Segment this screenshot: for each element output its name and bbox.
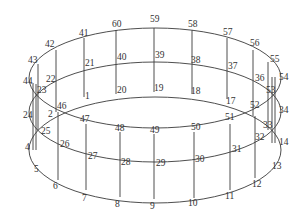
node-label-43: 43 <box>28 55 38 65</box>
node-label-7: 7 <box>82 193 87 203</box>
node-label-31: 31 <box>232 144 242 154</box>
node-label-26: 26 <box>60 139 70 149</box>
node-label-22: 22 <box>46 74 56 84</box>
node-label-25: 25 <box>41 126 51 136</box>
node-label-38: 38 <box>191 55 201 65</box>
node-label-4: 4 <box>25 142 30 152</box>
node-label-5: 5 <box>34 164 39 174</box>
node-label-10: 10 <box>188 198 198 208</box>
node-label-48: 48 <box>115 123 125 133</box>
node-label-39: 39 <box>155 50 165 60</box>
node-label-41: 41 <box>79 28 89 38</box>
node-label-51: 51 <box>225 112 235 122</box>
vertical-edges <box>33 28 275 199</box>
node-label-56: 56 <box>250 38 260 48</box>
node-label-28: 28 <box>121 157 131 167</box>
node-label-34: 34 <box>279 105 289 115</box>
node-label-36: 36 <box>255 73 265 83</box>
node-label-1: 1 <box>85 91 90 101</box>
ring-top <box>29 28 281 128</box>
node-label-60: 60 <box>112 19 122 29</box>
node-label-30: 30 <box>195 154 205 164</box>
node-label-50: 50 <box>191 122 201 132</box>
node-label-47: 47 <box>80 114 90 124</box>
node-label-11: 11 <box>225 191 234 201</box>
node-label-59: 59 <box>150 14 160 24</box>
cylinder-node-diagram: 1245678910111213141718192021222324252627… <box>0 0 308 223</box>
node-label-46: 46 <box>57 101 67 111</box>
node-label-21: 21 <box>85 58 95 68</box>
node-label-20: 20 <box>117 85 127 95</box>
node-label-12: 12 <box>252 179 262 189</box>
node-label-17: 17 <box>226 96 236 106</box>
node-label-53: 53 <box>266 85 276 95</box>
node-label-14: 14 <box>279 137 289 147</box>
node-label-52: 52 <box>250 100 260 110</box>
node-label-40: 40 <box>117 52 127 62</box>
node-label-54: 54 <box>279 72 289 82</box>
node-label-33: 33 <box>263 120 273 130</box>
node-label-18: 18 <box>191 86 201 96</box>
node-label-8: 8 <box>115 199 120 209</box>
node-label-6: 6 <box>53 181 58 191</box>
ring-bottom <box>29 97 281 203</box>
node-label-32: 32 <box>255 132 265 142</box>
node-label-13: 13 <box>272 161 282 171</box>
node-label-37: 37 <box>228 61 238 71</box>
node-label-19: 19 <box>154 83 164 93</box>
node-label-24: 24 <box>23 110 33 120</box>
node-label-42: 42 <box>45 39 55 49</box>
node-label-44: 44 <box>23 76 33 86</box>
node-label-2: 2 <box>48 109 53 119</box>
node-label-29: 29 <box>156 158 166 168</box>
node-label-23: 23 <box>37 85 47 95</box>
diagram-canvas: 1245678910111213141718192021222324252627… <box>0 0 308 223</box>
node-label-57: 57 <box>223 27 233 37</box>
node-label-9: 9 <box>150 201 155 211</box>
node-label-49: 49 <box>150 125 160 135</box>
node-label-27: 27 <box>88 151 98 161</box>
node-label-55: 55 <box>270 54 280 64</box>
node-label-58: 58 <box>188 19 198 29</box>
